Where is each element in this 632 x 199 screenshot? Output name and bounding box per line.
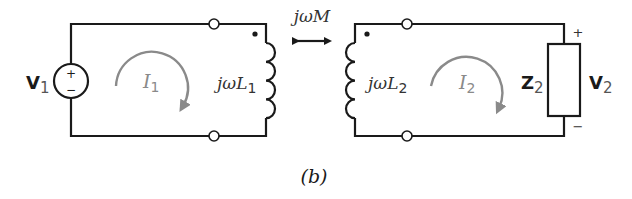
source-label-v1: V1: [26, 72, 49, 97]
load-impedance-z2-icon: [548, 44, 580, 116]
v2-minus-sign: −: [573, 119, 584, 134]
inductor-l2-coil-icon: [346, 43, 355, 118]
current-label-i1: I1: [142, 70, 159, 95]
current-label-i2: I2: [458, 71, 475, 96]
v2-plus-sign: +: [573, 25, 584, 40]
primary-top-wire: [71, 24, 266, 64]
load-label-z2: Z2: [521, 72, 544, 97]
source-minus-sign: −: [66, 83, 76, 97]
terminal-secondary-bottom: [402, 131, 412, 141]
coupling-label-jwm: jωM: [290, 6, 331, 26]
dot-marker-l2: [364, 31, 369, 36]
voltage-label-v2: V2: [589, 72, 612, 97]
secondary-top-wire: [355, 24, 564, 43]
terminal-secondary-top: [402, 19, 412, 29]
inductor-label-l2: jωL2: [364, 73, 407, 96]
secondary-bottom-wire: [355, 116, 564, 136]
inductor-l1-coil-icon: [266, 43, 275, 118]
inductor-label-l1: jωL1: [213, 73, 256, 96]
mutual-coupling: jωM: [290, 6, 331, 41]
source-plus-sign: +: [66, 67, 76, 81]
terminal-primary-bottom: [209, 131, 219, 141]
coupled-circuit-diagram: + − V1 I1 jωL1 jωM: [0, 0, 632, 199]
figure-caption: (b): [301, 165, 328, 187]
dot-marker-l1: [252, 31, 257, 36]
primary-bottom-wire: [71, 98, 266, 136]
terminal-primary-top: [209, 19, 219, 29]
